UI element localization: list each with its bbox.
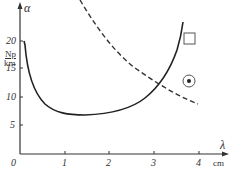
- x-axis-arrow-icon: [222, 152, 229, 157]
- y-tick-5: 5: [10, 120, 15, 130]
- y-axis-arrow-icon: [18, 2, 23, 9]
- axis-ticks: [20, 41, 199, 154]
- dashed-curve: [80, 0, 198, 104]
- y-tick-10: 10: [6, 92, 16, 102]
- x-unit: cm: [213, 158, 224, 168]
- y-axis-symbol: α: [24, 3, 30, 13]
- x-tick-2: 2: [106, 158, 111, 168]
- y-tick-15: 15: [6, 63, 16, 73]
- plot-area: [0, 0, 233, 170]
- x-axis-symbol: λ: [220, 140, 225, 150]
- attenuation-chart: α Np km 20 15 10 5 0 1 2 3 4 λ cm: [0, 0, 233, 170]
- y-tick-20: 20: [6, 36, 16, 46]
- origin-label: 0: [11, 158, 16, 168]
- x-tick-3: 3: [151, 158, 156, 168]
- x-tick-4: 4: [196, 158, 201, 168]
- x-tick-1: 1: [62, 158, 67, 168]
- square-marker-icon: [184, 33, 195, 44]
